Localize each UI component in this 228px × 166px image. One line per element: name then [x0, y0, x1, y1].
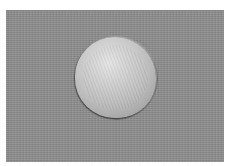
sphere-surface-texture [83, 45, 148, 110]
sphere-particle [75, 37, 156, 118]
image-frame [6, 10, 224, 162]
